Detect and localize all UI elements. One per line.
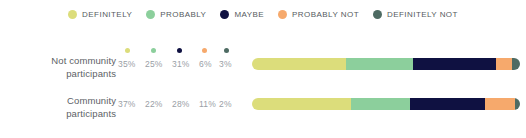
row-values: 37%22%28%11%2% xyxy=(118,99,238,113)
legend-dot-icon xyxy=(220,10,229,19)
row-value: 37% xyxy=(118,99,136,109)
row-label-line-2: participants xyxy=(8,68,116,81)
value-color-dot-icon xyxy=(151,48,156,53)
bar-segment[interactable] xyxy=(485,98,514,110)
bar-segment[interactable] xyxy=(515,98,520,110)
legend-dot-icon xyxy=(68,10,77,19)
row-value: 28% xyxy=(172,99,190,109)
legend-item[interactable]: PROBABLY xyxy=(146,10,206,19)
legend-item[interactable]: DEFINITELY xyxy=(68,10,132,19)
bar-segment[interactable] xyxy=(252,98,351,110)
row-value: 3% xyxy=(219,59,232,69)
legend-dot-icon xyxy=(373,10,382,19)
bar-segment[interactable] xyxy=(410,98,485,110)
row-value: 2% xyxy=(219,99,232,109)
legend-dot-icon xyxy=(278,10,287,19)
row-values: 35%25%31%6%3% xyxy=(118,59,238,73)
bar-segment[interactable] xyxy=(413,58,496,70)
value-color-dot-icon xyxy=(224,48,229,53)
legend-dot-icon xyxy=(146,10,155,19)
stacked-bar xyxy=(252,98,520,110)
value-color-dot-icon xyxy=(177,48,182,53)
chart-row: Communityparticipants37%22%28%11%2% xyxy=(0,86,526,126)
stacked-bar-chart: DEFINITELYPROBABLYMAYBEPROBABLY NOTDEFIN… xyxy=(0,0,526,138)
stacked-bar xyxy=(252,58,520,70)
bar-segment[interactable] xyxy=(346,58,413,70)
chart-legend: DEFINITELYPROBABLYMAYBEPROBABLY NOTDEFIN… xyxy=(0,10,526,19)
row-value: 35% xyxy=(118,59,136,69)
row-label-line-1: Community xyxy=(8,95,116,108)
row-value: 25% xyxy=(145,59,163,69)
bar-segment[interactable] xyxy=(351,98,410,110)
legend-item[interactable]: PROBABLY NOT xyxy=(278,10,359,19)
row-label-line-1: Not community xyxy=(8,55,116,68)
legend-item-label: MAYBE xyxy=(234,11,264,19)
row-label: Communityparticipants xyxy=(8,95,116,120)
bar-segment[interactable] xyxy=(496,58,512,70)
value-color-dot-icon xyxy=(125,48,130,53)
row-label: Not communityparticipants xyxy=(8,55,116,80)
legend-item-label: PROBABLY xyxy=(160,11,206,19)
legend-item-label: DEFINITELY NOT xyxy=(387,11,458,19)
legend-item-label: DEFINITELY xyxy=(82,11,132,19)
legend-item[interactable]: MAYBE xyxy=(220,10,264,19)
legend-item-label: PROBABLY NOT xyxy=(292,11,359,19)
value-color-dots xyxy=(118,46,236,56)
bar-segment[interactable] xyxy=(252,58,346,70)
row-value: 31% xyxy=(172,59,190,69)
legend-item[interactable]: DEFINITELY NOT xyxy=(373,10,458,19)
chart-row: Not communityparticipants35%25%31%6%3% xyxy=(0,46,526,86)
row-value: 11% xyxy=(199,99,216,109)
row-value: 6% xyxy=(199,59,212,69)
value-color-dot-icon xyxy=(202,48,207,53)
row-label-line-2: participants xyxy=(8,108,116,121)
row-value: 22% xyxy=(145,99,163,109)
chart-rows: Not communityparticipants35%25%31%6%3%Co… xyxy=(0,46,526,126)
bar-segment[interactable] xyxy=(512,58,520,70)
